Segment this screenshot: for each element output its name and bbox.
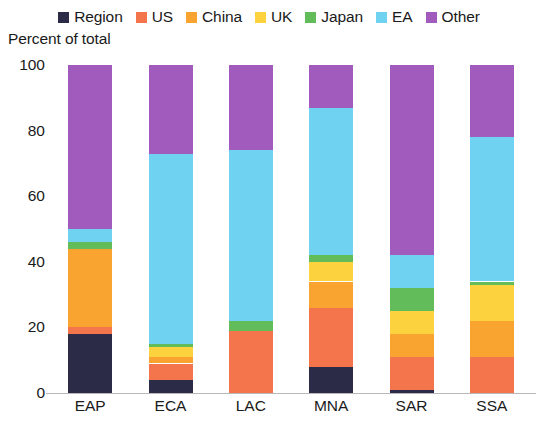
y-axis-title: Percent of total (8, 31, 111, 47)
bar-segment-japan (149, 344, 193, 347)
legend-item-label: China (202, 9, 242, 25)
bar-lac (229, 65, 273, 393)
legend-swatch-icon (376, 12, 387, 23)
bar-segment-uk (309, 262, 353, 282)
y-axis-tick-label: 60 (3, 188, 45, 204)
bar-segment-japan (229, 321, 273, 331)
legend-swatch-icon (305, 12, 316, 23)
bar-segment-us (390, 357, 434, 390)
bar-segment-ea (390, 255, 434, 288)
legend-swatch-icon (255, 12, 266, 23)
bar-segment-china (68, 249, 112, 328)
bar-stack (68, 65, 112, 393)
bar-segment-japan (390, 288, 434, 311)
bar-segment-other (390, 65, 434, 255)
x-axis-tick-label: ECA (130, 398, 210, 414)
bar-segment-other (149, 65, 193, 154)
y-axis-tick-label: 40 (3, 254, 45, 270)
bar-segment-ea (470, 137, 514, 281)
bar-segment-other (470, 65, 514, 137)
bar-segment-ea (68, 229, 112, 242)
legend-item-label: UK (271, 9, 292, 25)
y-axis-tick-label: 20 (3, 319, 45, 335)
bar-stack (470, 65, 514, 393)
y-axis-tick-label: 0 (3, 385, 45, 401)
y-axis-tick-label: 100 (3, 57, 45, 73)
bar-segment-japan (68, 242, 112, 249)
chart-plot-area (50, 65, 532, 393)
legend-item-label: EA (392, 9, 412, 25)
bar-segment-us (229, 331, 273, 393)
chart-legend: RegionUSChinaUKJapanEAOther (0, 6, 538, 28)
bar-stack (149, 65, 193, 393)
legend-item-label: Other (442, 9, 480, 25)
bar-stack (229, 65, 273, 393)
bar-segment-china (470, 321, 514, 357)
legend-item-uk: UK (255, 9, 292, 25)
y-axis-tick-label: 80 (3, 123, 45, 139)
bar-segment-region (68, 334, 112, 393)
bar-segment-japan (470, 282, 514, 285)
x-axis-tick-label: LAC (211, 398, 291, 414)
bar-segment-china (309, 282, 353, 308)
bar-segment-uk (390, 311, 434, 334)
bar-segment-other (68, 65, 112, 229)
legend-item-us: US (136, 9, 173, 25)
x-axis-baseline (46, 393, 536, 394)
bar-segment-china (390, 334, 434, 357)
chart-plot-frame: 020406080100 EAPECALACMNASARSSA (0, 55, 538, 421)
x-axis-tick-label: SSA (452, 398, 532, 414)
x-axis-tick-label: EAP (50, 398, 130, 414)
bar-mna (309, 65, 353, 393)
legend-swatch-icon (426, 12, 437, 23)
bar-segment-ea (309, 108, 353, 256)
legend-item-label: Japan (321, 9, 363, 25)
bar-segment-us (470, 357, 514, 393)
bar-ssa (470, 65, 514, 393)
bar-segment-region (149, 380, 193, 393)
bar-segment-region (309, 367, 353, 393)
bar-segment-ea (229, 150, 273, 321)
legend-swatch-icon (136, 12, 147, 23)
bar-eca (149, 65, 193, 393)
legend-swatch-icon (186, 12, 197, 23)
legend-swatch-icon (58, 12, 69, 23)
legend-item-japan: Japan (305, 9, 363, 25)
bar-stack (390, 65, 434, 393)
x-axis-tick-label: MNA (291, 398, 371, 414)
bar-segment-japan (309, 255, 353, 262)
bar-sar (390, 65, 434, 393)
legend-item-label: US (152, 9, 173, 25)
bar-segment-uk (149, 347, 193, 357)
bar-segment-other (229, 65, 273, 150)
legend-item-ea: EA (376, 9, 412, 25)
bar-stack (309, 65, 353, 393)
bar-segment-us (68, 327, 112, 334)
bar-segment-us (149, 364, 193, 380)
legend-item-china: China (186, 9, 242, 25)
legend-item-region: Region (58, 9, 123, 25)
bar-segment-ea (149, 154, 193, 344)
bar-segment-us (309, 308, 353, 367)
bar-segment-uk (470, 285, 514, 321)
bar-segment-other (309, 65, 353, 108)
legend-item-label: Region (74, 9, 123, 25)
x-axis-tick-label: SAR (371, 398, 451, 414)
bar-segment-china (149, 357, 193, 364)
bar-eap (68, 65, 112, 393)
legend-item-other: Other (426, 9, 480, 25)
